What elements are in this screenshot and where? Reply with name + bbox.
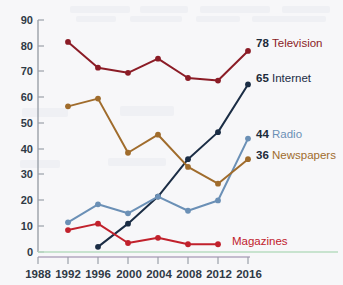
data-point <box>215 241 221 247</box>
end-label-radio: 44Radio <box>256 128 302 140</box>
data-point <box>125 70 131 76</box>
series-newspapers <box>65 96 251 187</box>
x-axis-tick-labels: 1988 1992 1996 2000 2004 2008 2012 2016 <box>25 268 262 280</box>
xtick-label: 1992 <box>55 268 81 280</box>
data-point <box>65 39 71 45</box>
series-line-magazines <box>68 224 218 245</box>
data-point <box>95 201 101 207</box>
xtick-label: 2004 <box>146 268 172 280</box>
xtick-label: 2000 <box>116 268 142 280</box>
data-point <box>185 75 191 81</box>
data-point <box>125 240 131 246</box>
end-label-value: 36 <box>256 149 269 161</box>
ytick-label: 0 <box>27 246 33 258</box>
end-label-name: Magazines <box>232 235 288 247</box>
end-label-newspapers: 36Newspapers <box>256 149 336 161</box>
data-point <box>65 227 71 233</box>
xtick-label: 1996 <box>85 268 111 280</box>
xtick-label: 2012 <box>206 268 232 280</box>
end-label-television: 78Television <box>256 37 323 49</box>
ytick-label: 70 <box>21 65 33 77</box>
data-point <box>155 235 161 241</box>
series-internet <box>95 82 251 250</box>
end-label-name: Television <box>272 37 323 49</box>
data-point <box>245 156 251 162</box>
data-point <box>95 96 101 102</box>
data-point <box>155 132 161 138</box>
data-point <box>155 56 161 62</box>
chart-container: 0 10 20 30 40 50 60 70 80 90 1 <box>0 0 343 285</box>
series-line-newspapers <box>68 99 248 184</box>
y-axis-tick-labels: 0 10 20 30 40 50 60 70 80 90 <box>21 14 33 258</box>
ytick-label: 40 <box>21 143 33 155</box>
end-label-value: 78 <box>256 37 269 49</box>
end-label-name: Newspapers <box>272 149 336 161</box>
data-point <box>185 164 191 170</box>
ytick-label: 10 <box>21 220 33 232</box>
data-point <box>125 150 131 156</box>
data-point <box>125 221 131 227</box>
series-line-internet <box>98 84 248 246</box>
line-chart-svg: 0 10 20 30 40 50 60 70 80 90 1 <box>0 0 343 285</box>
series-layer <box>65 39 251 250</box>
data-point <box>245 136 251 142</box>
xtick-label: 1988 <box>25 268 51 280</box>
ytick-label: 80 <box>21 40 33 52</box>
ytick-label: 90 <box>21 14 33 26</box>
end-label-magazines: Magazines <box>232 235 288 247</box>
x-axis-ticks <box>38 257 248 264</box>
data-point <box>185 156 191 162</box>
data-point <box>215 129 221 135</box>
data-point <box>95 65 101 71</box>
ytick-label: 20 <box>21 194 33 206</box>
data-point <box>125 210 131 216</box>
data-point <box>185 241 191 247</box>
end-label-name: Internet <box>272 72 312 84</box>
end-label-value: 44 <box>256 128 269 140</box>
data-point <box>65 103 71 109</box>
data-point <box>215 181 221 187</box>
ytick-label: 60 <box>21 91 33 103</box>
xtick-label: 2008 <box>176 268 202 280</box>
y-axis-ticks <box>38 20 44 252</box>
data-point <box>245 82 251 88</box>
data-point <box>65 219 71 225</box>
data-point <box>95 244 101 250</box>
data-point <box>245 48 251 54</box>
xtick-label: 2016 <box>236 268 262 280</box>
data-point <box>215 198 221 204</box>
ytick-label: 30 <box>21 168 33 180</box>
data-point <box>95 221 101 227</box>
end-label-name: Radio <box>272 128 302 140</box>
data-point <box>215 78 221 84</box>
end-label-value: 65 <box>256 72 269 84</box>
series-magazines <box>65 221 221 247</box>
ytick-label: 50 <box>21 117 33 129</box>
data-point <box>155 194 161 200</box>
end-labels-layer: 78Television65Internet44Radio36Newspaper… <box>232 37 336 247</box>
data-point <box>185 208 191 214</box>
series-television <box>65 39 251 83</box>
end-label-internet: 65Internet <box>256 72 312 84</box>
